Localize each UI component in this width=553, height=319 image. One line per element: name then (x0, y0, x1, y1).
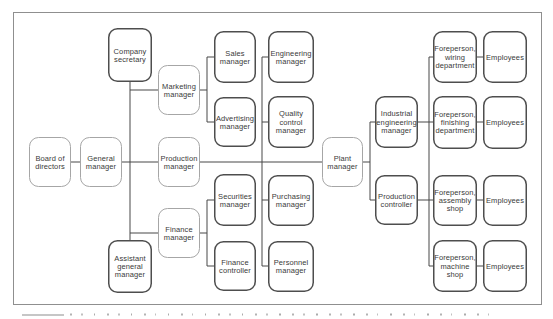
connector-line (262, 57, 263, 266)
connector-line (130, 82, 131, 240)
org-node-label-company-secretary: Company secretary (113, 47, 148, 64)
org-node-finance-controller: Finance controller (214, 241, 256, 291)
cropped-caption-fragment (22, 314, 64, 316)
org-node-foreperson-machine: Foreperson, machine shop (433, 240, 477, 292)
connector-line (207, 57, 208, 122)
org-chart-diagram: Board of directorsGeneral managerCompany… (0, 0, 553, 319)
connector-line (122, 162, 158, 163)
org-node-foreperson-wiring: Foreperson, wiring department (433, 31, 477, 83)
org-node-label-foreperson-finishing: Foreperson, finishing department (433, 110, 477, 135)
connector-line (370, 122, 371, 200)
org-node-company-secretary: Company secretary (108, 28, 152, 82)
org-node-board-of-directors: Board of directors (29, 137, 71, 187)
org-node-personnel-manager: Personnel manager (268, 241, 314, 292)
org-node-label-assistant-general-manager: Assistant general manager (113, 254, 146, 279)
org-node-assistant-general-manager: Assistant general manager (108, 240, 152, 293)
org-node-label-foreperson-assembly: Foreperson, assembly shop (433, 188, 477, 213)
org-node-label-quality-control-manager: Quality control manager (275, 110, 307, 135)
connector-line (207, 266, 214, 267)
org-node-label-finance-manager: Finance manager (163, 225, 195, 242)
org-node-label-personnel-manager: Personnel manager (273, 258, 310, 275)
org-node-label-advertising-manager: Advertising manager (215, 114, 255, 131)
org-node-label-employees-finishing: Employees (485, 118, 525, 126)
connector-line (207, 122, 214, 123)
connector-line (207, 200, 214, 201)
org-node-label-production-manager: Production manager (160, 154, 199, 171)
connector-line (429, 57, 430, 266)
org-node-label-plant-manager: Plant manager (326, 154, 358, 171)
org-node-employees-wiring: Employees (483, 31, 527, 83)
org-node-label-production-controller: Production controller (377, 192, 416, 209)
org-node-label-foreperson-machine: Foreperson, machine shop (433, 254, 477, 279)
connector-line (418, 122, 429, 123)
org-node-label-employees-machine: Employees (485, 262, 525, 270)
org-node-securities-manager: Securities manager (214, 174, 256, 226)
org-node-marketing-manager: Marketing manager (158, 65, 200, 115)
org-node-label-employees-wiring: Employees (485, 53, 525, 61)
org-node-foreperson-finishing: Foreperson, finishing department (433, 96, 477, 149)
org-node-foreperson-assembly: Foreperson, assembly shop (433, 175, 477, 226)
org-node-plant-manager: Plant manager (322, 137, 363, 187)
org-node-label-purchasing-manager: Purchasing manager (271, 192, 312, 209)
connector-line (130, 233, 158, 234)
org-node-label-engineering-manager: Engineering manager (269, 49, 312, 66)
org-node-label-sales-manager: Sales manager (219, 49, 251, 66)
org-node-quality-control-manager: Quality control manager (268, 96, 314, 148)
connector-line (418, 200, 429, 201)
connector-line (130, 90, 158, 91)
org-node-label-employees-assembly: Employees (485, 196, 525, 204)
org-node-finance-manager: Finance manager (158, 208, 200, 258)
org-node-purchasing-manager: Purchasing manager (268, 175, 314, 226)
org-node-industrial-engineering-manager: Industrial engineering manager (375, 96, 418, 148)
connector-line (207, 57, 214, 58)
org-node-advertising-manager: Advertising manager (214, 97, 256, 147)
org-node-employees-assembly: Employees (483, 175, 527, 226)
org-node-label-marketing-manager: Marketing manager (161, 82, 197, 99)
connector-line (71, 162, 80, 163)
org-node-production-manager: Production manager (158, 137, 200, 187)
org-node-label-board-of-directors: Board of directors (34, 154, 66, 171)
org-node-label-general-manager: General manager (85, 154, 117, 171)
org-node-engineering-manager: Engineering manager (268, 31, 314, 83)
org-node-general-manager: General manager (80, 137, 122, 187)
org-node-production-controller: Production controller (375, 175, 418, 225)
org-node-label-securities-manager: Securities manager (217, 192, 253, 209)
org-node-label-finance-controller: Finance controller (218, 258, 252, 275)
org-node-employees-machine: Employees (483, 240, 527, 292)
org-node-label-foreperson-wiring: Foreperson, wiring department (433, 45, 477, 70)
connector-line (207, 200, 208, 266)
cropped-caption-fragment (70, 314, 500, 316)
org-node-employees-finishing: Employees (483, 96, 527, 149)
org-chart-screenshot: Board of directorsGeneral managerCompany… (0, 0, 553, 319)
org-node-label-industrial-engineering-manager: Industrial engineering manager (375, 110, 417, 135)
org-node-sales-manager: Sales manager (214, 31, 256, 83)
